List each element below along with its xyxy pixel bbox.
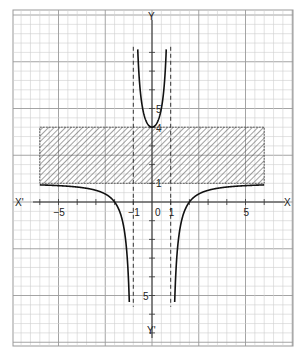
x-axis-neg-label: X' <box>15 197 24 208</box>
x-axis-label: X <box>284 197 291 208</box>
y-tick-label: 5 <box>156 104 162 115</box>
origin-label: 0 <box>155 207 161 218</box>
function-graph: YY'XX'0−5−1155415 <box>0 0 299 353</box>
y-tick-label: 4 <box>156 123 162 134</box>
y-tick-label: 5 <box>143 291 149 302</box>
x-tick-label: −1 <box>128 207 140 218</box>
y-tick-label: 1 <box>156 178 162 189</box>
x-tick-label: −5 <box>54 207 66 218</box>
x-tick-label: 1 <box>169 207 175 218</box>
y-axis-label: Y <box>148 11 155 22</box>
x-tick-label: 5 <box>244 207 250 218</box>
y-axis-neg-label: Y' <box>147 325 156 336</box>
